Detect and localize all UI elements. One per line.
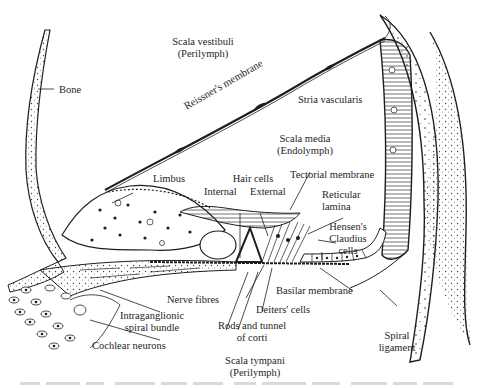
label-intraganglionic: Intraganglionic [112,310,192,322]
label-hensens: Hensen's [318,221,378,233]
cropped-caption-fragment [20,382,460,388]
label-scala-vestibuli-fluid: (Perilymph) [148,48,258,60]
label-hair-cells: Hair cells [222,173,284,185]
label-scala-vestibuli: Scala vestibuli [148,36,258,48]
label-spiral: Spiral [372,330,422,342]
osseous-spiral-lamina [40,260,236,296]
label-nerve-fibres: Nerve fibres [167,294,219,306]
label-tectorial-membrane: Tectorial membrane [290,169,374,181]
label-limbus: Limbus [153,173,185,185]
label-hair-cells-external: External [250,186,286,198]
cochlea-diagram: Bone Scala vestibuli (Perilymph) Reissne… [0,0,481,388]
label-basilar-membrane: Basilar membrane [276,285,353,297]
label-ligament: ligament [372,342,422,354]
label-scala-tympani: Scala tympani [200,355,310,367]
label-of-corti: of corti [200,332,304,344]
label-rods-and-tunnel: Rods and tunnel [200,320,304,332]
label-scala-tympani-fluid: (Perilymph) [200,367,310,379]
label-cells: cells [318,245,378,257]
label-scala-media-fluid: (Endolymph) [255,145,355,157]
label-cochlear-neurons: Cochlear neurons [92,340,166,352]
label-reticular-lamina-2: lamina [322,201,351,213]
label-deiters-cells: Deiters' cells [256,304,310,316]
label-bone: Bone [59,84,81,96]
bone-wall [8,30,66,292]
label-hair-cells-internal: Internal [204,186,237,198]
label-reticular-lamina: Reticular [322,189,360,201]
label-stria-vascularis: Stria vascularis [298,94,362,106]
label-claudius: Claudius [318,233,378,245]
label-scala-media: Scala media [255,133,355,145]
label-spiral-bundle: spiral bundle [112,322,192,334]
